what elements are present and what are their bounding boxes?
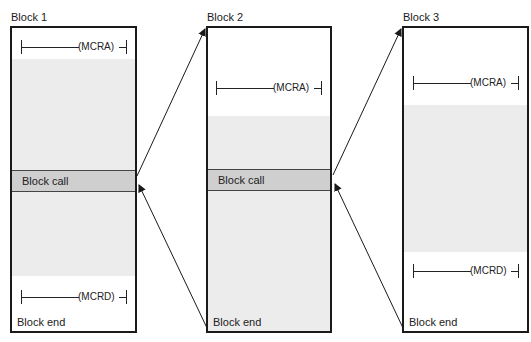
mcra-coil: (MCRA) xyxy=(470,76,506,90)
block-2-mcra-rung: (MCRA) xyxy=(216,81,322,95)
wire xyxy=(21,297,79,298)
block-1-mcrd-rung: (MCRD) xyxy=(21,290,127,304)
mcra-coil: (MCRA) xyxy=(78,40,114,54)
block-3-mcra-rung: (MCRA) xyxy=(413,76,519,90)
block-end-label: Block end xyxy=(213,316,261,328)
block-call-label: Block call xyxy=(22,175,68,187)
block-2-title: Block 2 xyxy=(207,11,243,23)
right-rail xyxy=(321,81,322,95)
wire xyxy=(413,271,471,272)
right-rail xyxy=(518,76,519,90)
block-1: (MCRA) Block call (MCRD) Block end xyxy=(10,26,137,333)
block-1-title: Block 1 xyxy=(11,11,47,23)
block-3: (MCRA) (MCRD) Block end xyxy=(402,26,529,333)
arrow-block1-to-block2 xyxy=(137,29,205,176)
arrow-block3-return-to-block2 xyxy=(335,184,403,328)
block-end-label: Block end xyxy=(409,316,457,328)
wire xyxy=(21,47,79,48)
mcrd-coil: (MCRD) xyxy=(78,290,115,304)
block-3-title: Block 3 xyxy=(403,11,439,23)
block-1-program-area xyxy=(12,59,135,276)
mcra-coil: (MCRA) xyxy=(273,81,309,95)
block-2: (MCRA) Block call Block end xyxy=(206,26,332,333)
wire xyxy=(413,83,471,84)
block-1-call-band: Block call xyxy=(12,170,135,192)
block-3-program-area xyxy=(404,105,527,252)
right-rail xyxy=(126,40,127,54)
wire xyxy=(216,88,274,89)
block-1-mcra-rung: (MCRA) xyxy=(21,40,127,54)
block-2-call-band: Block call xyxy=(208,169,330,191)
arrow-block2-to-block3 xyxy=(333,29,401,175)
mcrd-coil: (MCRD) xyxy=(470,264,507,278)
block-2-program-area xyxy=(208,116,330,331)
block-call-label: Block call xyxy=(218,174,264,186)
block-end-label: Block end xyxy=(17,316,65,328)
block-3-mcrd-rung: (MCRD) xyxy=(413,264,519,278)
right-rail xyxy=(126,290,127,304)
right-rail xyxy=(518,264,519,278)
arrow-block2-return-to-block1 xyxy=(139,185,207,328)
